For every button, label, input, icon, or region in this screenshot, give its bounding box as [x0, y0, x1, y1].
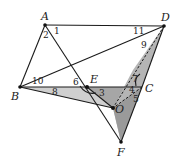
label-d: D — [160, 11, 170, 24]
segment-af — [45, 25, 121, 142]
segment-ad — [45, 25, 164, 26]
angle-label-10: 10 — [32, 76, 44, 86]
point-b — [18, 85, 22, 89]
point-f — [119, 140, 123, 144]
angle-label-6: 6 — [73, 77, 79, 87]
angle-label-5: 5 — [133, 94, 139, 104]
angle-label-8: 8 — [52, 87, 58, 97]
label-f: F — [116, 146, 125, 159]
geometry-figure: A D B C E O F 1 2 11 9 10 6 8 3 7 4 5 — [0, 0, 177, 166]
label-b: B — [10, 90, 19, 103]
point-d — [162, 24, 166, 28]
label-e: E — [89, 73, 98, 86]
angle-label-1: 1 — [54, 26, 60, 36]
angle-label-2: 2 — [43, 30, 49, 40]
label-a: A — [40, 10, 49, 23]
figure-canvas: A D B C E O F 1 2 11 9 10 6 8 3 7 4 5 — [0, 0, 177, 166]
angle-label-7: 7 — [132, 74, 138, 84]
angle-label-11: 11 — [133, 26, 144, 36]
angle-label-3: 3 — [99, 88, 105, 98]
point-a — [43, 23, 47, 27]
point-e — [85, 85, 89, 89]
label-o: O — [115, 103, 124, 116]
angle-label-9: 9 — [141, 40, 147, 50]
label-c: C — [145, 82, 154, 95]
